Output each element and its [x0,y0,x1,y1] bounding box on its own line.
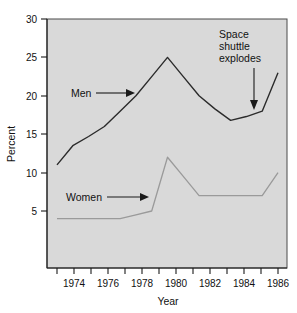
x-tick-label-1978: 1978 [131,278,154,289]
y-axis-title: Percent [5,126,17,162]
x-tick-label-1982: 1982 [199,278,222,289]
y-tick-label-30: 30 [26,14,38,25]
series-label-men: Men [71,87,92,99]
y-tick-label-25: 25 [26,52,38,63]
y-axis-ticks [41,19,47,211]
y-tick-label-5: 5 [31,206,37,217]
chart-canvas: 30 25 20 15 10 5 1974 1976 1978 1980 198 [0,0,297,313]
x-tick-label-1984: 1984 [233,278,256,289]
x-axis-title: Year [157,295,179,307]
x-axis-ticks [57,268,278,274]
x-tick-label-1986: 1986 [267,278,290,289]
series-label-women: Women [66,191,102,203]
x-tick-label-1980: 1980 [165,278,188,289]
annotation-space-shuttle-line1: Space [219,28,249,40]
annotation-space-shuttle-line3: explodes [219,52,261,64]
annotation-space-shuttle-line2: shuttle [219,40,250,52]
line-chart: 30 25 20 15 10 5 1974 1976 1978 1980 198 [0,0,297,313]
y-tick-label-15: 15 [26,129,38,140]
x-tick-label-1976: 1976 [97,278,120,289]
x-tick-label-1974: 1974 [63,278,86,289]
y-tick-label-10: 10 [26,168,38,179]
y-tick-label-20: 20 [26,91,38,102]
